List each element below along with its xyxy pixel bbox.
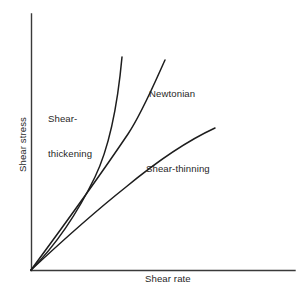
label-shear-thickening-line2: thickening xyxy=(48,148,92,160)
label-shear-thickening: Shear- thickening xyxy=(48,90,92,182)
y-axis-title: Shear stress xyxy=(17,105,28,185)
label-shear-thinning: Shear-thinning xyxy=(146,163,210,175)
label-newtonian: Newtonian xyxy=(149,88,195,100)
rheology-figure: Shear- thickening Newtonian Shear-thinni… xyxy=(0,0,307,299)
plot-area xyxy=(0,0,307,299)
label-shear-thickening-line1: Shear- xyxy=(48,113,92,125)
x-axis-title: Shear rate xyxy=(145,273,191,284)
